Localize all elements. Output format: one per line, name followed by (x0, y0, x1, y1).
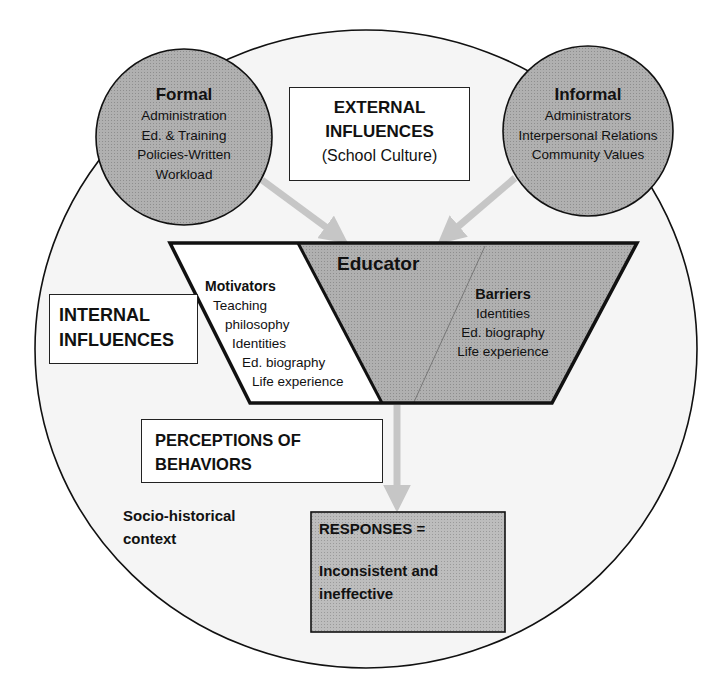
context-label: Socio-historical context (123, 504, 236, 550)
responses-line3: ineffective (319, 582, 499, 605)
formal-item: Workload (104, 165, 264, 185)
responses-box: RESPONSES = Inconsistent and ineffective (319, 517, 499, 605)
responses-line2: Inconsistent and (319, 559, 499, 582)
external-line2: INFLUENCES (290, 120, 469, 144)
external-influences-box: EXTERNAL INFLUENCES (School Culture) (289, 87, 470, 181)
external-line3: (School Culture) (290, 144, 469, 168)
barriers-item: Identities (443, 304, 563, 323)
barriers-item: Ed. biography (443, 323, 563, 342)
formal-item: Ed. & Training (104, 126, 264, 146)
formal-item: Administration (104, 106, 264, 126)
motivators-title: Motivators (205, 277, 344, 296)
internal-line1: INTERNAL (59, 303, 197, 328)
informal-item: Administrators (493, 106, 683, 126)
perceptions-line2: BEHAVIORS (155, 452, 382, 476)
perceptions-box: PERCEPTIONS OF BEHAVIORS (141, 419, 383, 483)
motivators-group: Motivators Teaching philosophy Identitie… (205, 277, 344, 391)
barriers-group: Barriers Identities Ed. biography Life e… (443, 285, 563, 361)
motivators-item: Identities (205, 334, 344, 353)
motivators-item: Ed. biography (205, 353, 344, 372)
external-line1: EXTERNAL (290, 96, 469, 120)
barriers-title: Barriers (443, 285, 563, 304)
educator-title: Educator (337, 253, 419, 275)
informal-title: Informal (493, 84, 683, 106)
formal-title: Formal (104, 84, 264, 106)
internal-influences-box: INTERNAL INFLUENCES (49, 294, 198, 364)
responses-spacer (319, 540, 499, 559)
responses-line1: RESPONSES = (319, 517, 499, 540)
informal-group: Informal Administrators Interpersonal Re… (493, 84, 683, 165)
formal-group: Formal Administration Ed. & Training Pol… (104, 84, 264, 184)
motivators-item: Teaching (205, 296, 344, 315)
formal-item: Policies-Written (104, 145, 264, 165)
perceptions-line1: PERCEPTIONS OF (155, 428, 382, 452)
motivators-item: philosophy (205, 315, 344, 334)
context-line2: context (123, 527, 236, 550)
informal-item: Interpersonal Relations (493, 126, 683, 146)
informal-item: Community Values (493, 145, 683, 165)
internal-line2: INFLUENCES (59, 328, 197, 353)
barriers-item: Life experience (443, 342, 563, 361)
context-line1: Socio-historical (123, 504, 236, 527)
motivators-item: Life experience (205, 372, 344, 391)
